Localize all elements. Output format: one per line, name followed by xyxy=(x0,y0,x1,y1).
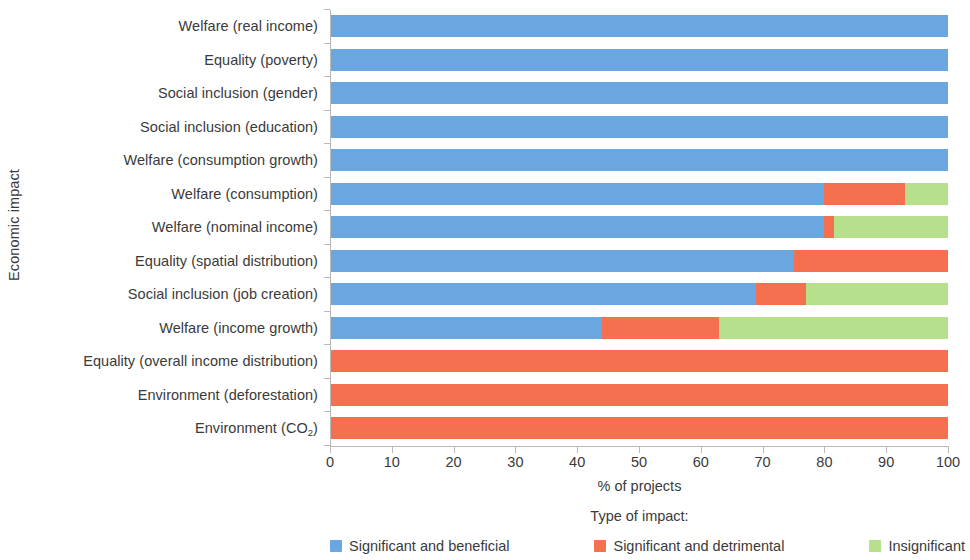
bar-row-equality-overall-income-distribution xyxy=(330,350,948,372)
bar-row-welfare-nominal-income xyxy=(330,216,948,238)
y-axis-category-labels: Welfare (real income)Equality (poverty)S… xyxy=(28,10,324,446)
legend-swatch-icon xyxy=(869,540,881,552)
y-axis-tick-11 xyxy=(324,378,330,379)
x-axis-tick-20 xyxy=(454,447,455,453)
x-axis-tick-label-70: 70 xyxy=(738,454,788,470)
x-axis-tick-label-90: 90 xyxy=(861,454,911,470)
y-axis-tick-6 xyxy=(324,210,330,211)
y-axis-tick-4 xyxy=(324,143,330,144)
y-axis-tick-3 xyxy=(324,110,330,111)
bar-segment-significant-and-detrimental xyxy=(824,183,904,205)
x-axis-tick-70 xyxy=(763,447,764,453)
bar-row-welfare-consumption xyxy=(330,183,948,205)
legend-swatch-icon xyxy=(330,540,342,552)
x-axis-tick-label-50: 50 xyxy=(614,454,664,470)
y-axis-label-social-inclusion-gender: Social inclusion (gender) xyxy=(158,82,318,104)
y-axis-tick-10 xyxy=(324,344,330,345)
bar-row-welfare-income-growth xyxy=(330,317,948,339)
y-axis-label-equality-poverty: Equality (poverty) xyxy=(204,49,318,71)
x-axis-tick-label-40: 40 xyxy=(552,454,602,470)
bar-row-social-inclusion-education xyxy=(330,116,948,138)
bar-segment-insignificant xyxy=(719,317,948,339)
plot-area xyxy=(330,10,948,446)
legend-item-label: Significant and beneficial xyxy=(349,538,509,554)
bar-segment-insignificant xyxy=(905,183,948,205)
y-axis-tick-12 xyxy=(324,411,330,412)
y-axis-label-social-inclusion-job-creation: Social inclusion (job creation) xyxy=(128,283,318,305)
x-axis-tick-label-0: 0 xyxy=(305,454,355,470)
legend-item-significant-and-detrimental[interactable]: Significant and detrimental xyxy=(594,538,784,554)
bar-row-welfare-consumption-growth xyxy=(330,149,948,171)
x-axis-tick-label-30: 30 xyxy=(490,454,540,470)
y-axis-label-environment-co2: Environment (CO2) xyxy=(195,417,318,439)
bar-segment-significant-and-beneficial xyxy=(330,317,602,339)
x-axis-tick-50 xyxy=(639,447,640,453)
legend-item-label: Significant and detrimental xyxy=(613,538,784,554)
bar-segment-significant-and-beneficial xyxy=(330,216,824,238)
bar-row-social-inclusion-gender xyxy=(330,82,948,104)
x-axis-tick-100 xyxy=(948,447,949,453)
bar-segment-significant-and-detrimental xyxy=(794,250,949,272)
bar-row-equality-spatial-distribution xyxy=(330,250,948,272)
y-axis-tick-8 xyxy=(324,277,330,278)
bar-segment-insignificant xyxy=(806,283,948,305)
x-axis-tick-label-60: 60 xyxy=(676,454,726,470)
y-axis-tick-5 xyxy=(324,177,330,178)
x-axis-tick-90 xyxy=(886,447,887,453)
y-axis-tick-9 xyxy=(324,311,330,312)
legend-title: Type of impact: xyxy=(330,508,949,524)
y-axis-tick-7 xyxy=(324,244,330,245)
x-axis-title: % of projects xyxy=(330,478,949,494)
x-axis-tick-30 xyxy=(515,447,516,453)
y-axis-label-welfare-income-growth: Welfare (income growth) xyxy=(159,317,318,339)
y-axis-label-equality-spatial-distribution: Equality (spatial distribution) xyxy=(135,250,318,272)
y-axis-label-equality-overall-income-distribution: Equality (overall income distribution) xyxy=(83,350,318,372)
x-axis-tick-label-20: 20 xyxy=(429,454,479,470)
bar-row-equality-poverty xyxy=(330,49,948,71)
legend-swatch-icon xyxy=(594,540,606,552)
legend-item-label: Insignificant xyxy=(888,538,965,554)
x-axis-tick-10 xyxy=(392,447,393,453)
bar-row-environment-deforestation xyxy=(330,384,948,406)
x-axis-tick-60 xyxy=(701,447,702,453)
bar-segment-significant-and-beneficial xyxy=(330,283,756,305)
bar-row-social-inclusion-job-creation xyxy=(330,283,948,305)
bar-segment-significant-and-detrimental xyxy=(824,216,833,238)
legend: Significant and beneficialSignificant an… xyxy=(330,534,965,558)
y-axis-tick-2 xyxy=(324,76,330,77)
bar-segment-significant-and-detrimental xyxy=(602,317,719,339)
bar-row-welfare-real-income xyxy=(330,15,948,37)
bar-segment-significant-and-detrimental xyxy=(330,417,948,439)
bar-segment-significant-and-beneficial xyxy=(330,149,948,171)
bar-segment-significant-and-beneficial xyxy=(330,116,948,138)
y-axis-label-environment-deforestation: Environment (deforestation) xyxy=(138,384,318,406)
y-axis-label-welfare-real-income: Welfare (real income) xyxy=(179,15,318,37)
bar-segment-significant-and-beneficial xyxy=(330,250,794,272)
bar-segment-significant-and-beneficial xyxy=(330,15,948,37)
bar-segment-significant-and-beneficial xyxy=(330,82,948,104)
y-axis-label-welfare-nominal-income: Welfare (nominal income) xyxy=(152,216,318,238)
bar-segment-insignificant xyxy=(834,216,948,238)
x-axis-tick-0 xyxy=(330,447,331,453)
y-axis-line xyxy=(330,10,331,447)
bar-segment-significant-and-beneficial xyxy=(330,49,948,71)
y-axis-tick-1 xyxy=(324,43,330,44)
bar-segment-significant-and-detrimental xyxy=(756,283,805,305)
bar-segment-significant-and-detrimental xyxy=(330,350,948,372)
bar-segment-significant-and-beneficial xyxy=(330,183,824,205)
y-axis-label-social-inclusion-education: Social inclusion (education) xyxy=(140,116,318,138)
legend-item-significant-and-beneficial[interactable]: Significant and beneficial xyxy=(330,538,509,554)
x-axis-tick-label-10: 10 xyxy=(367,454,417,470)
x-axis-tick-40 xyxy=(577,447,578,453)
y-axis-tick-0 xyxy=(324,9,330,10)
bar-segment-significant-and-detrimental xyxy=(330,384,948,406)
bar-row-environment-co2 xyxy=(330,417,948,439)
x-axis-tick-80 xyxy=(824,447,825,453)
x-axis-tick-label-80: 80 xyxy=(799,454,849,470)
y-axis-label-welfare-consumption: Welfare (consumption) xyxy=(171,183,318,205)
x-axis-tick-label-100: 100 xyxy=(923,454,970,470)
y-axis-title-text: Economic impact xyxy=(6,169,22,281)
y-axis-tick-13 xyxy=(324,445,330,446)
legend-item-insignificant[interactable]: Insignificant xyxy=(869,538,965,554)
